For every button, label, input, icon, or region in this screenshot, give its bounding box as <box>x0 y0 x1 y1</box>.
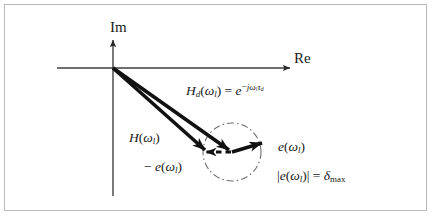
label-e-vector: e(ωl) <box>278 140 305 155</box>
vector-e <box>232 143 262 152</box>
label-minus-e-vector: − e(ωl) <box>144 160 182 175</box>
label-hd-equation: Hd(ωl) = e−jωlτd <box>186 83 264 99</box>
imaginary-axis-label: Im <box>110 20 127 35</box>
figure-container: Im Re Hd(ωl) = e−jωlτd H(ωl) e(ωl) − e(ω… <box>0 0 433 217</box>
real-axis-label: Re <box>294 51 311 66</box>
label-error-magnitude-constraint: |e(ωl)| = δmax <box>277 169 345 184</box>
vector-diagram-canvas <box>0 0 433 217</box>
label-h-vector: H(ωl) <box>129 131 160 146</box>
